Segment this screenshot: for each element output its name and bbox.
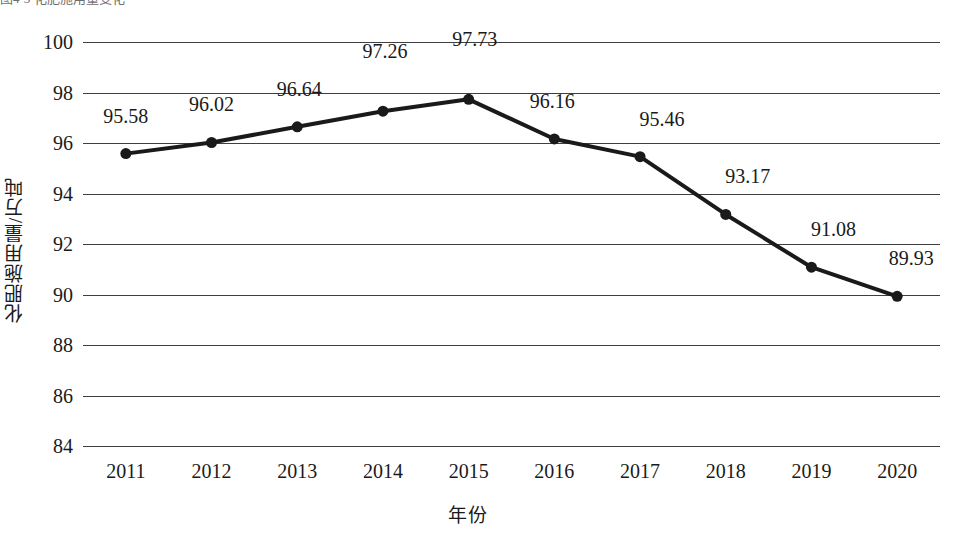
- y-axis-tick-label: 86: [53, 384, 73, 407]
- data-point-marker: [377, 106, 388, 117]
- plot-area: 8486889092949698100 20112012201320142015…: [83, 42, 940, 446]
- x-axis-tick-label: 2015: [449, 460, 489, 483]
- x-axis-tick-label: 2012: [192, 460, 232, 483]
- x-axis-tick-label: 2011: [106, 460, 145, 483]
- data-point-marker: [120, 148, 131, 159]
- y-axis-tick-label: 96: [53, 132, 73, 155]
- series-polyline: [126, 99, 897, 296]
- y-axis-tick-label: 98: [53, 81, 73, 104]
- x-axis-tick-label: 2018: [706, 460, 746, 483]
- data-series-line: [83, 42, 940, 446]
- y-axis-title: 化肥施用量/万吨: [2, 140, 28, 360]
- y-axis-tick-label: 90: [53, 283, 73, 306]
- y-axis-tick-label: 94: [53, 182, 73, 205]
- x-axis-title: 年份: [0, 500, 955, 527]
- data-point-marker: [463, 94, 474, 105]
- data-point-marker: [635, 151, 646, 162]
- x-axis-tick-label: 2013: [277, 460, 317, 483]
- x-axis-title-text: 年份: [448, 500, 488, 527]
- x-axis-tick-label: 2017: [620, 460, 660, 483]
- x-axis-tick-label: 2020: [877, 460, 917, 483]
- gridline: [83, 446, 940, 447]
- data-point-marker: [292, 121, 303, 132]
- y-axis-tick-label: 100: [43, 31, 73, 54]
- data-point-marker: [549, 133, 560, 144]
- data-point-marker: [206, 137, 217, 148]
- line-chart-figure: 化肥施用量/万吨 8486889092949698100 20112012201…: [0, 0, 955, 540]
- x-axis-tick-label: 2016: [534, 460, 574, 483]
- y-axis-tick-label: 84: [53, 435, 73, 458]
- x-axis-tick-label: 2014: [363, 460, 403, 483]
- data-point-marker: [720, 209, 731, 220]
- data-point-marker: [806, 262, 817, 273]
- data-point-marker: [892, 291, 903, 302]
- y-axis-tick-label: 92: [53, 233, 73, 256]
- x-axis-tick-label: 2019: [791, 460, 831, 483]
- y-axis-tick-label: 88: [53, 334, 73, 357]
